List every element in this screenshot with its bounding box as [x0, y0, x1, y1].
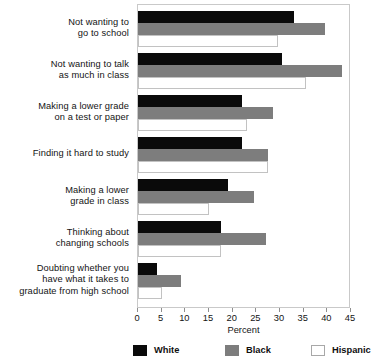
x-tick-label-25: 25 [250, 312, 260, 324]
x-tick-label-20: 20 [226, 312, 236, 324]
bars-layer [138, 5, 349, 307]
bar-black-2 [138, 107, 273, 119]
category-label-line: Not wanting to talk [0, 59, 129, 70]
category-label-line: on a test or paper [0, 112, 129, 123]
x-tick-label-30: 30 [274, 312, 284, 324]
bar-white-6 [138, 263, 157, 275]
legend-item-hispanic[interactable]: Hispanic [311, 343, 371, 357]
bar-hispanic-3 [138, 161, 268, 173]
category-label-1: Not wanting to talkas much in class [0, 59, 129, 82]
bar-white-4 [138, 179, 228, 191]
x-tick-label-45: 45 [345, 312, 355, 324]
bar-hispanic-2 [138, 119, 247, 131]
bar-white-1 [138, 53, 282, 65]
category-label-line: changing schools [0, 238, 129, 249]
x-tick-label-5: 5 [158, 312, 163, 324]
category-label-line: Making a lower grade [0, 101, 129, 112]
bar-black-0 [138, 23, 325, 35]
category-label-3: Finding it hard to study [0, 148, 129, 159]
bar-black-6 [138, 275, 181, 287]
bar-black-4 [138, 191, 254, 203]
legend-swatch-hispanic [311, 345, 325, 356]
bar-white-0 [138, 11, 294, 23]
category-label-4: Making a lowergrade in class [0, 185, 129, 208]
x-tick-label-15: 15 [203, 312, 213, 324]
x-axis-tick-labels: 051015202530354045 [137, 312, 350, 325]
category-label-line: as much in class [0, 70, 129, 81]
bar-black-5 [138, 233, 266, 245]
bar-white-2 [138, 95, 242, 107]
x-axis-title: Percent [137, 325, 350, 335]
x-tick-label-35: 35 [297, 312, 307, 324]
category-label-5: Thinking aboutchanging schools [0, 227, 129, 250]
category-label-line: Finding it hard to study [0, 148, 129, 159]
category-label-2: Making a lower gradeon a test or paper [0, 101, 129, 124]
bar-black-1 [138, 65, 342, 77]
category-label-0: Not wanting togo to school [0, 17, 129, 40]
legend-item-white[interactable]: White [133, 343, 179, 357]
category-label-line: Thinking about [0, 227, 129, 238]
bar-hispanic-6 [138, 287, 162, 299]
category-label-6: Doubting whether youhave what it takes t… [0, 263, 129, 297]
category-label-line: have what it takes to [0, 274, 129, 285]
bar-black-3 [138, 149, 268, 161]
category-label-line: go to school [0, 28, 129, 39]
legend-label-white: White [154, 345, 179, 355]
legend-item-black[interactable]: Black [225, 343, 271, 357]
x-tick-label-0: 0 [134, 312, 139, 324]
legend: WhiteBlackHispanic [133, 343, 359, 359]
bar-hispanic-5 [138, 245, 221, 257]
x-tick-label-10: 10 [179, 312, 189, 324]
bar-hispanic-0 [138, 35, 278, 47]
bar-white-3 [138, 137, 242, 149]
category-label-line: grade in class [0, 196, 129, 207]
category-label-line: Doubting whether you [0, 263, 129, 274]
bar-hispanic-1 [138, 77, 306, 89]
legend-label-hispanic: Hispanic [332, 345, 371, 355]
x-tick-label-40: 40 [321, 312, 331, 324]
legend-swatch-black [225, 345, 239, 356]
category-label-line: graduate from high school [0, 286, 129, 297]
plot-area [137, 4, 350, 308]
legend-label-black: Black [246, 345, 271, 355]
category-label-line: Not wanting to [0, 17, 129, 28]
bar-white-5 [138, 221, 221, 233]
bar-hispanic-4 [138, 203, 209, 215]
legend-swatch-white [133, 345, 147, 356]
category-label-line: Making a lower [0, 185, 129, 196]
category-axis-labels: Not wanting togo to schoolNot wanting to… [0, 0, 133, 308]
